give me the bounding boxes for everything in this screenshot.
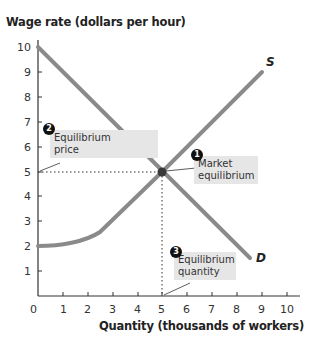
x-tick-0: 0 xyxy=(30,303,37,316)
callout-equilibrium-quantity: Equilibrium quantity xyxy=(174,252,236,280)
x-tick-1: 1 xyxy=(60,303,67,316)
y-tick-5: 5 xyxy=(24,166,31,179)
y-tick-6: 6 xyxy=(24,141,31,154)
demand-label: D xyxy=(256,251,266,265)
supply-label: S xyxy=(266,55,275,69)
callout1-line2: equilibrium xyxy=(198,170,254,182)
x-tick-2: 2 xyxy=(84,303,91,316)
y-tick-7: 7 xyxy=(24,116,31,129)
callout3-leader xyxy=(164,283,190,295)
callout-market-equilibrium: Market equilibrium xyxy=(194,156,258,184)
x-axis-title: Quantity (thousands of workers) xyxy=(99,319,304,333)
callout3-line2: quantity xyxy=(178,266,232,278)
callout2-leader xyxy=(40,163,60,171)
y-tick-2: 2 xyxy=(24,240,31,253)
callout2-line2: price xyxy=(54,144,154,156)
y-tick-10: 10 xyxy=(17,41,31,54)
callout2-line1: Equilibrium xyxy=(54,132,154,144)
x-tick-5: 5 xyxy=(158,303,165,316)
y-tick-4: 4 xyxy=(24,190,31,203)
y-tick-3: 3 xyxy=(24,215,31,228)
callout-equilibrium-price: Equilibrium price xyxy=(50,130,158,158)
x-tick-10: 10 xyxy=(280,303,294,316)
callout3-line1: Equilibrium xyxy=(178,254,232,266)
callout1-line1: Market xyxy=(198,158,254,170)
callout1-leader xyxy=(166,168,196,171)
equilibrium-point xyxy=(158,168,167,177)
y-tick-8: 8 xyxy=(24,91,31,104)
x-tick-8: 8 xyxy=(233,303,240,316)
callout3-badge: 3 xyxy=(170,246,182,258)
callout1-badge: 1 xyxy=(191,149,203,161)
x-tick-9: 9 xyxy=(258,303,265,316)
x-tick-7: 7 xyxy=(208,303,215,316)
y-tick-9: 9 xyxy=(24,66,31,79)
y-tick-1: 1 xyxy=(24,265,31,278)
x-tick-3: 3 xyxy=(109,303,116,316)
x-tick-4: 4 xyxy=(134,303,141,316)
callout2-badge: 2 xyxy=(43,123,55,135)
chart-plot: 0 1 2 3 4 5 6 7 8 9 10 1 2 3 4 5 6 7 8 9… xyxy=(0,0,312,352)
x-tick-6: 6 xyxy=(183,303,190,316)
